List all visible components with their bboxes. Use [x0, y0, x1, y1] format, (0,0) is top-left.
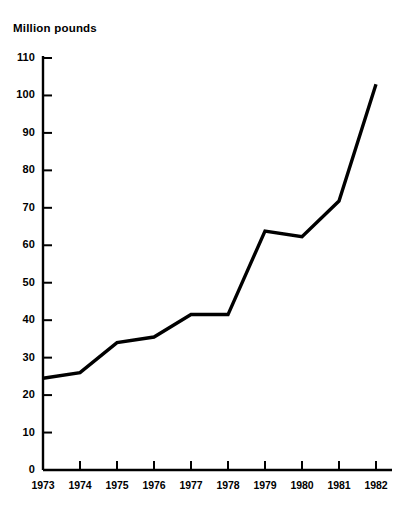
chart-plot-area [0, 0, 410, 514]
y-axis-tick-label: 110 [5, 51, 35, 63]
chart-axes [43, 56, 392, 470]
y-axis-tick-label: 70 [5, 201, 35, 213]
x-axis-tick-label: 1982 [354, 479, 398, 491]
y-axis-tick-label: 60 [5, 238, 35, 250]
y-axis-tick-label: 30 [5, 351, 35, 363]
y-axis-tick-label: 80 [5, 163, 35, 175]
y-axis-tick-label: 0 [5, 463, 35, 475]
y-axis-tick-label: 40 [5, 313, 35, 325]
line-chart: Million pounds 0102030405060708090100110… [0, 0, 410, 514]
y-axis-ticks [43, 58, 52, 470]
x-axis-ticks [43, 461, 376, 470]
y-axis-tick-label: 20 [5, 388, 35, 400]
y-axis-tick-label: 50 [5, 276, 35, 288]
y-axis-tick-label: 90 [5, 126, 35, 138]
y-axis-tick-label: 10 [5, 426, 35, 438]
y-axis-tick-label: 100 [5, 88, 35, 100]
data-series-line [43, 84, 376, 378]
